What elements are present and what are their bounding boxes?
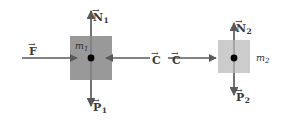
vector-arrow-accent-P1: → xyxy=(92,96,100,105)
vector-arrow-accent-P2: → xyxy=(235,86,243,95)
vector-subscript-P2: 2 xyxy=(245,97,250,105)
center-of-mass-dot-2 xyxy=(231,55,238,62)
center-of-mass-dot-1 xyxy=(88,55,95,62)
vector-label-P1: →P1 xyxy=(93,98,107,115)
vector-subscript-N1: 1 xyxy=(104,17,109,25)
mass-label-m1: m1 xyxy=(75,41,88,53)
figure-canvas: →N1 →P1 →F →C →C →N2 →P2 m1 m2 xyxy=(0,0,283,121)
vector-label-N1: →N1 xyxy=(93,8,109,25)
vector-subscript-N2: 2 xyxy=(247,28,252,36)
vector-arrow-accent-C1: → xyxy=(151,49,159,58)
vector-label-N2: →N2 xyxy=(236,19,252,36)
vector-label-F: →F xyxy=(29,42,37,58)
vector-arrow-accent-C2: → xyxy=(171,49,179,58)
mass-symbol-m2: m xyxy=(256,52,265,63)
vector-arrow-accent-N1: → xyxy=(92,6,100,15)
vector-label-P2: →P2 xyxy=(236,88,250,105)
vector-arrow-accent-N2: → xyxy=(235,17,243,26)
mass-subscript-m2: 2 xyxy=(265,57,269,65)
vector-arrow-accent-F: → xyxy=(28,40,36,49)
mass-subscript-m1: 1 xyxy=(84,45,88,53)
vector-label-C2: →C xyxy=(172,51,181,67)
mass-label-m2: m2 xyxy=(256,53,269,65)
vector-label-C1: →C xyxy=(152,51,161,67)
vector-subscript-P1: 1 xyxy=(102,107,107,115)
mass-symbol-m1: m xyxy=(75,40,84,51)
